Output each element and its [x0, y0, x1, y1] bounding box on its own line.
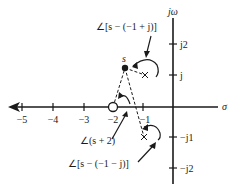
- test-point-s: [122, 65, 128, 71]
- pointer-upper: [147, 36, 151, 52]
- pole-lower-marker: [141, 134, 147, 140]
- arrow-down-icon: [144, 51, 150, 58]
- tick-label-imag: j: [179, 70, 183, 81]
- tick-label-real: −5: [17, 114, 28, 125]
- pole-upper-marker: [142, 72, 148, 78]
- vector-lower-pole-to-s: [125, 68, 144, 137]
- arrow-up-icon: [122, 111, 128, 117]
- test-point-label: s: [122, 53, 126, 64]
- tick-label-imag: −j1: [180, 132, 193, 143]
- vector-zero-to-s: [113, 68, 125, 107]
- label-angle-zero: ∠(s + 2): [80, 135, 115, 147]
- arc-arrowhead-icon: [142, 124, 148, 131]
- zero-marker: [109, 103, 118, 112]
- imaginary-axis-label: jω: [166, 6, 178, 17]
- real-axis-label: σ: [222, 101, 228, 112]
- tick-label-real: −1: [140, 114, 151, 125]
- tick-label-real: −3: [79, 114, 90, 125]
- s-plane-diagram: −5 −4 −3 −2 −1 j2 j −j1 −j2 jω σ s ∠[s −…: [0, 0, 235, 192]
- tick-label-real: −4: [48, 114, 59, 125]
- arrow-up-icon: [149, 142, 156, 149]
- tick-label-imag: j2: [179, 39, 188, 50]
- label-angle-upper-pole: ∠[s − (−1 + j)]: [96, 21, 157, 33]
- tick-label-real: −2: [108, 114, 119, 125]
- arc-arrowhead-icon: [118, 92, 124, 99]
- tick-label-imag: −j2: [180, 163, 193, 174]
- label-angle-lower-pole: ∠[s − (−1 − j)]: [68, 158, 129, 170]
- pointer-lower: [138, 147, 152, 162]
